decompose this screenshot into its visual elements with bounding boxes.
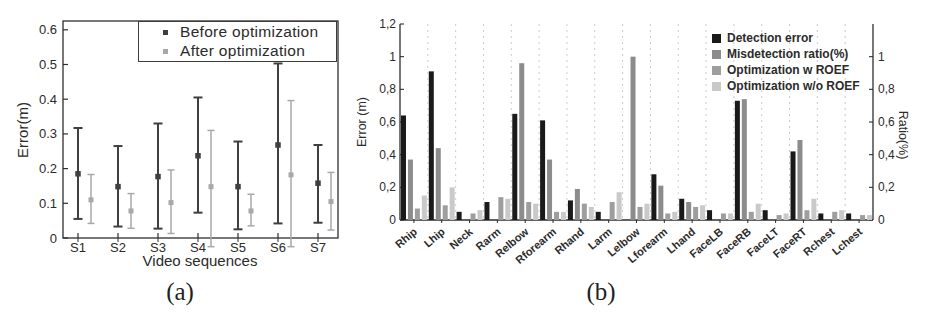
errorbar-mean-marker (195, 153, 201, 159)
chart-b-right-tick-label: 0,2 (878, 180, 895, 194)
chart-b-right-tick-label: 0,6 (878, 115, 895, 129)
legend-label: Optimization w/o ROEF (727, 79, 860, 93)
errorbar-mean-marker (315, 180, 321, 186)
errorbar-mean-marker (155, 174, 161, 180)
bar-detection-error (846, 213, 851, 220)
bar-optimization-w-o-roef (533, 204, 538, 220)
bar-optimization-w-o-roef (561, 212, 566, 220)
legend-label: Detection error (727, 31, 813, 45)
figure-panel: 00.10.20.30.40.50.6S1S2S3S4S5S6S7Video s… (0, 0, 930, 328)
bar-optimization-w-o-roef (589, 207, 594, 220)
bar-detection-error (457, 212, 462, 220)
chart-b-left-tick-label: 0 (389, 213, 396, 227)
errorbar-mean-marker (75, 171, 81, 177)
chart-b-x-tick-label: Lchest (829, 225, 864, 257)
chart-b-left-tick-label: 0,8 (379, 82, 396, 96)
bar-misdetection-ratio- (575, 189, 580, 220)
chart-b-x-tick-label: Rhand (552, 225, 586, 256)
bar-optimization-w-roef (526, 202, 531, 220)
errorbar-mean-marker (329, 199, 334, 204)
bar-optimization-w-o-roef (728, 213, 733, 220)
chart-a-y-tick-label: 0.1 (39, 196, 57, 211)
errorbar-mean-marker (249, 208, 254, 213)
chart-b-left-tick-label: 0,4 (379, 148, 396, 162)
chart-b-x-tick-label: Rhip (393, 225, 420, 250)
chart-b-right-tick-label: 0,4 (878, 148, 895, 162)
optimization-w-roef-swatch-icon (712, 66, 721, 75)
chart-a-y-tick-label: 0.5 (39, 57, 57, 72)
chart-a-y-tick-label: 0.2 (39, 161, 57, 176)
detection-error-swatch-icon (712, 34, 721, 43)
chart-b-left-tick-label: 0,2 (379, 180, 396, 194)
bar-optimization-w-o-roef (450, 187, 455, 220)
bar-optimization-w-o-roef (672, 212, 677, 220)
chart-a-y-tick-label: 0 (50, 231, 57, 246)
chart-b-legend: Detection error Misdetection ratio(%) Op… (712, 30, 860, 94)
chart-a-y-tick-label: 0.6 (39, 22, 57, 37)
errorbar-mean-marker (289, 172, 294, 177)
bar-misdetection-ratio- (547, 160, 552, 220)
legend-label: After optimization (180, 42, 305, 60)
chart-b-left-tick-label: 0,6 (379, 115, 396, 129)
bar-misdetection-ratio- (797, 140, 802, 220)
legend-item-optimization-wo-roef: Optimization w/o ROEF (712, 78, 860, 94)
chart-a-y-tick-label: 0.4 (39, 92, 57, 107)
bar-optimization-w-o-roef (839, 210, 844, 220)
bar-optimization-w-roef (637, 207, 642, 220)
bar-optimization-w-roef (665, 213, 670, 220)
bar-misdetection-ratio- (436, 148, 441, 220)
bar-detection-error (818, 213, 823, 220)
errorbar-mean-marker (115, 184, 121, 190)
errorbar-mean-marker (275, 142, 281, 148)
chart-b-x-tick-label: Lhip (422, 225, 448, 249)
bar-optimization-w-o-roef (644, 204, 649, 220)
bar-optimization-w-roef (582, 204, 587, 220)
bar-detection-error (791, 151, 796, 220)
bar-optimization-w-roef (415, 209, 420, 220)
errorbar-mean-marker (209, 184, 214, 189)
bar-misdetection-ratio- (742, 99, 747, 220)
bar-detection-error (651, 174, 656, 220)
legend-item-before: Before optimization (139, 23, 336, 41)
bar-detection-error (540, 120, 545, 220)
subfigure-b-caption: (b) (571, 278, 631, 306)
bar-detection-error (429, 71, 434, 220)
chart-b-x-tick-label: Rchest (801, 225, 837, 258)
bar-misdetection-ratio- (658, 186, 663, 220)
errorbar-mean-marker (129, 208, 134, 213)
legend-item-detection-error: Detection error (712, 30, 860, 46)
optimization-wo-roef-swatch-icon (712, 82, 721, 91)
chart-a-legend: Before optimization After optimization (138, 21, 337, 62)
bar-optimization-w-o-roef (422, 196, 427, 220)
bar-optimization-w-roef (443, 205, 448, 220)
chart-a-x-tick-label: S6 (270, 240, 286, 255)
bar-optimization-w-o-roef (700, 205, 705, 220)
bar-optimization-w-o-roef (505, 199, 510, 220)
chart-a-x-tick-label: S2 (110, 240, 126, 255)
bar-detection-error (484, 202, 489, 220)
chart-b-left-tick-label: 1 (389, 50, 396, 64)
bar-optimization-w-roef (777, 215, 782, 220)
misdetection-ratio-swatch-icon (712, 50, 721, 59)
chart-b-left-tick-label: 1,2 (379, 17, 396, 31)
after-optimization-marker-icon (163, 49, 168, 54)
legend-item-misdetection-ratio: Misdetection ratio(%) (712, 46, 860, 62)
before-optimization-marker-icon (163, 30, 168, 35)
bar-optimization-w-roef (749, 212, 754, 220)
bar-detection-error (596, 212, 601, 220)
chart-a-y-axis-label: Error(m) (14, 102, 31, 158)
bar-optimization-w-roef (554, 212, 559, 220)
legend-item-after: After optimization (139, 42, 336, 60)
legend-label: Optimization w ROEF (727, 63, 849, 77)
bar-misdetection-ratio- (686, 202, 691, 220)
bar-optimization-w-roef (721, 213, 726, 220)
bar-detection-error (401, 115, 406, 220)
chart-a-x-tick-label: S1 (70, 240, 86, 255)
chart-b-right-tick-label: 0 (878, 213, 885, 227)
bar-misdetection-ratio- (631, 57, 636, 220)
bar-detection-error (707, 210, 712, 220)
chart-a-x-tick-label: S7 (310, 240, 326, 255)
chart-b-left-axis-label: Error (m) (355, 97, 369, 147)
bar-detection-error (735, 101, 740, 220)
bar-detection-error (512, 114, 517, 220)
